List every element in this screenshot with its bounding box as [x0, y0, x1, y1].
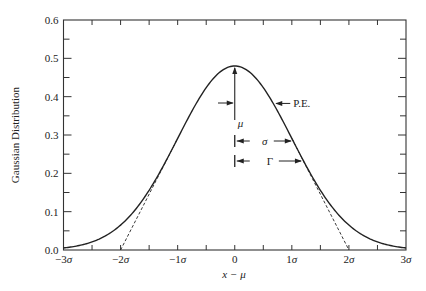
- y-tick-label: 0.6: [45, 14, 59, 26]
- y-axis-label: Gaussian Distribution: [9, 86, 21, 183]
- arrowhead-icon: [285, 139, 292, 144]
- y-tick-label: 0.5: [45, 52, 59, 64]
- y-tick-label: 0.4: [45, 91, 59, 103]
- arrowhead-icon: [227, 101, 234, 106]
- gamma-label: Γ: [267, 155, 273, 167]
- arrowhead-icon: [295, 159, 302, 164]
- x-tick-label: −2σ: [112, 253, 130, 265]
- x-tick-label: 0: [232, 253, 238, 265]
- x-axis-label: x − μ: [221, 268, 246, 280]
- gaussian-chart: −3σ−2σ−1σ01σ2σ3σ0.00.10.20.30.40.50.6 μP…: [0, 0, 426, 291]
- x-tick-label: 3σ: [401, 253, 413, 265]
- arrowhead-icon: [275, 101, 282, 106]
- arrowhead-icon: [237, 159, 244, 164]
- annotations: μP.E.σΓ: [218, 67, 311, 167]
- mean-label: μ: [237, 117, 244, 129]
- arrowhead-icon: [237, 139, 244, 144]
- tangent-line: [121, 138, 178, 250]
- y-tick-label: 0.0: [45, 244, 59, 256]
- y-tick-label: 0.2: [45, 167, 59, 179]
- sigma-label: σ: [262, 135, 268, 147]
- x-tick-label: −1σ: [169, 253, 187, 265]
- axis-tick-labels: −3σ−2σ−1σ01σ2σ3σ0.00.10.20.30.40.50.6: [45, 14, 412, 265]
- x-tick-label: 2σ: [343, 253, 355, 265]
- arrowhead-icon: [232, 67, 237, 74]
- y-tick-label: 0.3: [45, 129, 59, 141]
- pe-label: P.E.: [293, 97, 310, 109]
- x-tick-label: 1σ: [286, 253, 298, 265]
- y-tick-label: 0.1: [45, 206, 59, 218]
